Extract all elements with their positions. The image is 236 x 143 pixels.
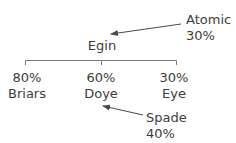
- ownership-diagram: Egin 80% Briars 60% Doye 30% Eye Atomic …: [0, 0, 236, 143]
- annotation-spade-label: Spade: [146, 110, 187, 125]
- child-eye-percent: 30%: [160, 70, 189, 85]
- child-doye-label: Doye: [84, 86, 118, 101]
- annotation-spade-percent: 40%: [146, 126, 175, 141]
- annotation-atomic-label: Atomic: [186, 12, 231, 27]
- child-briars-label: Briars: [8, 86, 46, 101]
- parent-node-label: Egin: [88, 38, 116, 53]
- child-doye-percent: 60%: [87, 70, 116, 85]
- bracket-connector: [26, 61, 177, 66]
- annotation-atomic-percent: 30%: [186, 28, 215, 43]
- arrow-atomic-to-egin: [111, 24, 181, 34]
- arrow-spade-to-doye: [103, 106, 143, 115]
- child-eye-label: Eye: [162, 86, 186, 101]
- child-briars-percent: 80%: [13, 70, 42, 85]
